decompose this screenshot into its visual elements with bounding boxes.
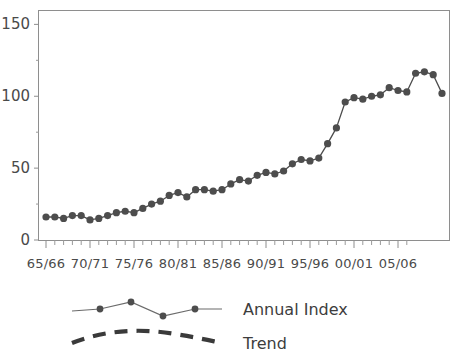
data-point-marker xyxy=(218,186,225,193)
data-point-marker xyxy=(368,93,375,100)
x-tick-label: 95/96 xyxy=(291,256,329,271)
legend-label-annual-index: Annual Index xyxy=(243,300,348,319)
data-point-marker xyxy=(324,140,331,147)
data-point-marker xyxy=(386,84,393,91)
legend-sample-trend xyxy=(72,331,222,343)
data-point-marker xyxy=(421,68,428,75)
data-point-marker xyxy=(271,170,278,177)
data-point-marker xyxy=(262,169,269,176)
data-point-marker xyxy=(192,186,199,193)
data-point-marker xyxy=(174,189,181,196)
data-point-marker xyxy=(438,90,445,97)
data-point-marker xyxy=(201,186,208,193)
x-tick-label: 00/01 xyxy=(335,256,373,271)
x-tick-label: 80/81 xyxy=(159,256,197,271)
x-axis: 65/6670/7175/7680/8185/8690/9195/9600/01… xyxy=(27,240,417,271)
data-point-marker xyxy=(377,91,384,98)
x-tick-label: 85/86 xyxy=(203,256,241,271)
chart-legend: Annual Index Trend xyxy=(72,299,348,353)
data-point-marker xyxy=(210,188,217,195)
plot-area-frame xyxy=(39,11,450,241)
data-point-marker xyxy=(359,96,366,103)
legend-marker xyxy=(128,299,135,306)
legend-sample-annual-index xyxy=(72,299,222,320)
data-point-marker xyxy=(245,177,252,184)
data-point-marker xyxy=(78,212,85,219)
data-point-marker xyxy=(280,167,287,174)
legend-marker xyxy=(192,306,199,313)
y-tick-label: 150 xyxy=(1,15,30,33)
data-point-marker xyxy=(306,157,313,164)
data-point-marker xyxy=(139,205,146,212)
data-point-marker xyxy=(113,209,120,216)
chart-figure: 050100150 65/6670/7175/7680/8185/8690/91… xyxy=(0,0,470,353)
legend-marker xyxy=(97,306,104,313)
data-point-marker xyxy=(95,215,102,222)
data-point-marker xyxy=(236,176,243,183)
data-point-marker xyxy=(42,213,49,220)
data-point-marker xyxy=(227,180,234,187)
data-point-marker xyxy=(254,172,261,179)
data-point-marker xyxy=(394,87,401,94)
annual-index-trend-chart: 050100150 65/6670/7175/7680/8185/8690/91… xyxy=(0,0,470,353)
legend-label-trend: Trend xyxy=(242,334,287,353)
data-point-marker xyxy=(69,212,76,219)
data-point-marker xyxy=(403,88,410,95)
data-point-marker xyxy=(130,209,137,216)
y-tick-label: 0 xyxy=(20,231,30,249)
data-point-marker xyxy=(122,208,129,215)
y-tick-label: 100 xyxy=(1,87,30,105)
data-point-marker xyxy=(350,94,357,101)
data-point-marker xyxy=(157,198,164,205)
data-point-marker xyxy=(289,160,296,167)
x-tick-label: 75/76 xyxy=(115,256,153,271)
y-tick-label: 50 xyxy=(11,159,30,177)
data-point-marker xyxy=(333,124,340,131)
data-point-marker xyxy=(315,154,322,161)
legend-marker xyxy=(160,313,167,320)
data-point-marker xyxy=(342,98,349,105)
x-tick-label: 90/91 xyxy=(247,256,285,271)
data-point-marker xyxy=(60,215,67,222)
data-point-marker xyxy=(166,192,173,199)
data-point-marker xyxy=(430,71,437,78)
data-point-marker xyxy=(183,193,190,200)
x-tick-label: 05/06 xyxy=(379,256,417,271)
x-tick-label: 70/71 xyxy=(71,256,109,271)
data-point-marker xyxy=(86,216,93,223)
data-point-marker xyxy=(104,212,111,219)
y-axis: 050100150 xyxy=(1,15,39,249)
data-point-marker xyxy=(51,213,58,220)
data-point-marker xyxy=(298,156,305,163)
x-tick-label: 65/66 xyxy=(27,256,65,271)
data-point-marker xyxy=(412,70,419,77)
data-point-marker xyxy=(148,200,155,207)
